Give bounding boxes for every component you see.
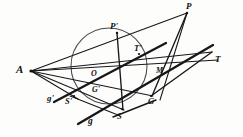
- label-S: S: [117, 112, 122, 121]
- label-P: P: [186, 2, 192, 11]
- label-T: T: [215, 55, 221, 64]
- label-G: G: [148, 97, 154, 106]
- line-P-to-G: [152, 13, 187, 96]
- line-gprime-secant: [54, 43, 166, 102]
- label-g: g: [88, 117, 93, 127]
- point-Tprime: [138, 53, 140, 55]
- label-P-prime: P': [110, 22, 118, 31]
- label-T-prime: T': [134, 44, 142, 53]
- line-A-to-Sprime: [31, 71, 78, 99]
- label-M: M: [156, 67, 163, 75]
- label-g-prime: g': [47, 94, 54, 103]
- label-O: O: [91, 70, 97, 78]
- label-G-prime: G': [92, 86, 100, 94]
- geometry-figure: A P' P T' T M O G' G g' S' g S: [0, 0, 243, 137]
- label-A: A: [16, 64, 23, 75]
- point-S: [121, 108, 123, 110]
- point-Pprime: [116, 32, 118, 34]
- point-Sprime: [73, 95, 75, 97]
- label-S-prime: S': [65, 97, 72, 106]
- point-A: [29, 69, 32, 72]
- point-P: [186, 12, 188, 14]
